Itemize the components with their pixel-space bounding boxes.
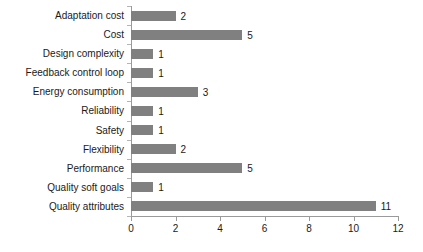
category-label: Performance (67, 159, 131, 178)
bar-row: 11 (131, 197, 398, 216)
bar-track (131, 163, 242, 173)
bar (131, 163, 242, 173)
bar-row: 1 (131, 63, 398, 82)
bar-value-label: 1 (153, 182, 164, 193)
bar-row: 2 (131, 6, 398, 25)
bar-row: 3 (131, 82, 398, 101)
x-axis-tick-label: 12 (383, 223, 413, 234)
y-axis-tick (127, 140, 131, 141)
bar-track (131, 144, 176, 154)
bar-row: 1 (131, 121, 398, 140)
bar-row: 5 (131, 159, 398, 178)
bar-track (131, 30, 242, 40)
bar-value-label: 1 (153, 48, 164, 59)
category-label: Energy consumption (33, 82, 131, 101)
x-axis-tick-label: 0 (116, 223, 146, 234)
category-axis-labels: Adaptation costCostDesign complexityFeed… (0, 6, 131, 216)
bar-track (131, 49, 153, 59)
bar (131, 201, 376, 211)
x-axis-tick-label: 8 (294, 223, 324, 234)
y-axis-tick (127, 6, 131, 7)
category-label: Feedback control loop (26, 63, 131, 82)
bar (131, 87, 198, 97)
bar-track (131, 11, 176, 21)
category-label: Reliability (81, 101, 131, 120)
bar (131, 125, 153, 135)
x-axis-tick (220, 217, 221, 221)
y-axis-tick (127, 101, 131, 102)
bar (131, 68, 153, 78)
x-axis-tick (265, 217, 266, 221)
y-axis-tick (127, 82, 131, 83)
bar-chart: Adaptation costCostDesign complexityFeed… (0, 0, 423, 252)
bar-value-label: 3 (198, 86, 209, 97)
bar-value-label: 2 (176, 10, 187, 21)
bar-value-label: 1 (153, 106, 164, 117)
x-axis-tick-label: 10 (339, 223, 369, 234)
bar-track (131, 201, 376, 211)
bar-row: 1 (131, 101, 398, 120)
bar-value-label: 5 (242, 163, 253, 174)
bar-value-label: 1 (153, 125, 164, 136)
category-label: Quality soft goals (47, 178, 131, 197)
bar-track (131, 182, 153, 192)
x-axis-tick (309, 217, 310, 221)
bar (131, 144, 176, 154)
category-label: Safety (96, 121, 131, 140)
category-label: Design complexity (43, 44, 131, 63)
bar-value-label: 11 (376, 201, 391, 212)
x-axis-tick (176, 217, 177, 221)
bar-track (131, 87, 198, 97)
bar (131, 49, 153, 59)
bar-row: 2 (131, 140, 398, 159)
bar-track (131, 68, 153, 78)
category-label: Flexibility (83, 140, 131, 159)
category-label: Adaptation cost (55, 6, 131, 25)
bar (131, 106, 153, 116)
bar-value-label: 1 (153, 67, 164, 78)
bar (131, 11, 176, 21)
bar-row: 1 (131, 44, 398, 63)
bar-value-label: 5 (242, 29, 253, 40)
y-axis-tick (127, 63, 131, 64)
y-axis-tick (127, 44, 131, 45)
x-axis-tick (398, 217, 399, 221)
bar (131, 182, 153, 192)
bar-row: 1 (131, 178, 398, 197)
y-axis-tick (127, 159, 131, 160)
bar (131, 30, 242, 40)
x-axis-tick-label: 4 (205, 223, 235, 234)
x-axis-tick (354, 217, 355, 221)
y-axis-tick (127, 121, 131, 122)
category-label: Cost (103, 25, 131, 44)
x-axis-tick (131, 217, 132, 221)
bar-value-label: 2 (176, 144, 187, 155)
x-axis-tick-label: 6 (250, 223, 280, 234)
bar-track (131, 106, 153, 116)
category-label: Quality attributes (49, 197, 131, 216)
bar-row: 5 (131, 25, 398, 44)
x-axis-tick-label: 2 (161, 223, 191, 234)
bar-track (131, 125, 153, 135)
plot-area: 251131125111 (131, 6, 398, 216)
y-axis-tick (127, 178, 131, 179)
y-axis-tick (127, 197, 131, 198)
y-axis-tick (127, 25, 131, 26)
